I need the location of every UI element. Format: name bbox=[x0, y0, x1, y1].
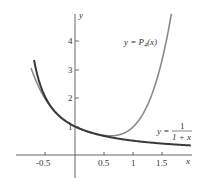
chart: -0.5 0.5 1 1.5 x 1 2 3 4 y y = P4(x) y =… bbox=[0, 0, 204, 188]
y-ticks bbox=[75, 41, 79, 127]
y-tick-label: 4 bbox=[68, 36, 73, 46]
x-axis-label: x bbox=[185, 156, 190, 166]
y-tick-label: 2 bbox=[68, 93, 73, 103]
y-tick-label: 3 bbox=[68, 65, 73, 75]
svg-text:1: 1 bbox=[180, 121, 185, 131]
x-tick-label: 1 bbox=[131, 158, 136, 168]
x-tick-label: 1.5 bbox=[156, 158, 168, 168]
x-tick-label: -0.5 bbox=[36, 158, 51, 168]
rational-label: y = 1 1 + x bbox=[156, 121, 192, 142]
y-axis-label: y bbox=[78, 10, 83, 20]
p4-curve bbox=[31, 14, 171, 136]
x-tick-label: 0.5 bbox=[98, 158, 110, 168]
p4-label: y = P4(x) bbox=[123, 37, 157, 48]
svg-text:y =: y = bbox=[156, 126, 169, 136]
svg-text:1 + x: 1 + x bbox=[172, 132, 191, 142]
